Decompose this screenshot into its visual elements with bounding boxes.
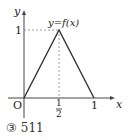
x-tick-half-numerator: 1 xyxy=(56,99,62,108)
choice-value: 511 xyxy=(21,121,44,135)
answer-choice: ③ 511 xyxy=(6,121,44,135)
y-axis-label: y xyxy=(14,6,20,17)
curve-label: y=f(x) xyxy=(48,18,79,28)
x-axis-arrow-icon xyxy=(110,96,115,100)
choice-marker: ③ xyxy=(6,121,17,135)
origin-label: O xyxy=(13,100,22,111)
x-tick-half-denominator: 2 xyxy=(56,110,62,119)
y-axis-arrow-icon xyxy=(22,10,26,15)
x-axis-label: x xyxy=(116,99,122,110)
x-tick-1: 1 xyxy=(91,100,98,111)
y-tick-1: 1 xyxy=(15,25,22,36)
